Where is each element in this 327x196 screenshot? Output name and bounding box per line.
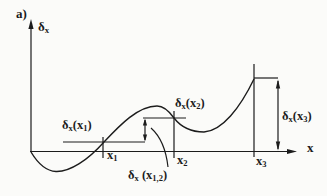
- figure-panel: a) δx x δx(x1) δx(x2) δx(x3) δx (x1,2) x…: [0, 0, 327, 196]
- delta-x12-leader-line: [151, 128, 168, 167]
- x1-tick-label: x1: [107, 149, 118, 163]
- delta-x12-up-arrowhead-icon: [143, 119, 147, 126]
- y-axis-label: δx: [38, 20, 49, 35]
- delta-x3-down-arrowhead-icon: [276, 142, 280, 151]
- x2-tick-label: x2: [177, 154, 188, 168]
- y-axis-arrowhead-icon: [28, 19, 33, 29]
- diagram-lines: [30, 23, 292, 172]
- delta-x2-label: δx(x2): [175, 97, 205, 111]
- delta-x12-down-arrowhead-icon: [143, 135, 147, 142]
- x3-tick-label: x3: [256, 155, 267, 169]
- diagram-arrowheads: [28, 19, 297, 154]
- x-axis-arrowhead-icon: [287, 149, 297, 154]
- panel-label: a): [16, 7, 27, 21]
- x-axis-label: x: [307, 141, 314, 155]
- delta-x12-label: δx (x1,2): [128, 169, 167, 183]
- delta-x3-up-arrowhead-icon: [276, 80, 280, 89]
- delta-x1-label: δx(x1): [62, 119, 92, 133]
- delta-x3-label: δx(x3): [282, 110, 312, 124]
